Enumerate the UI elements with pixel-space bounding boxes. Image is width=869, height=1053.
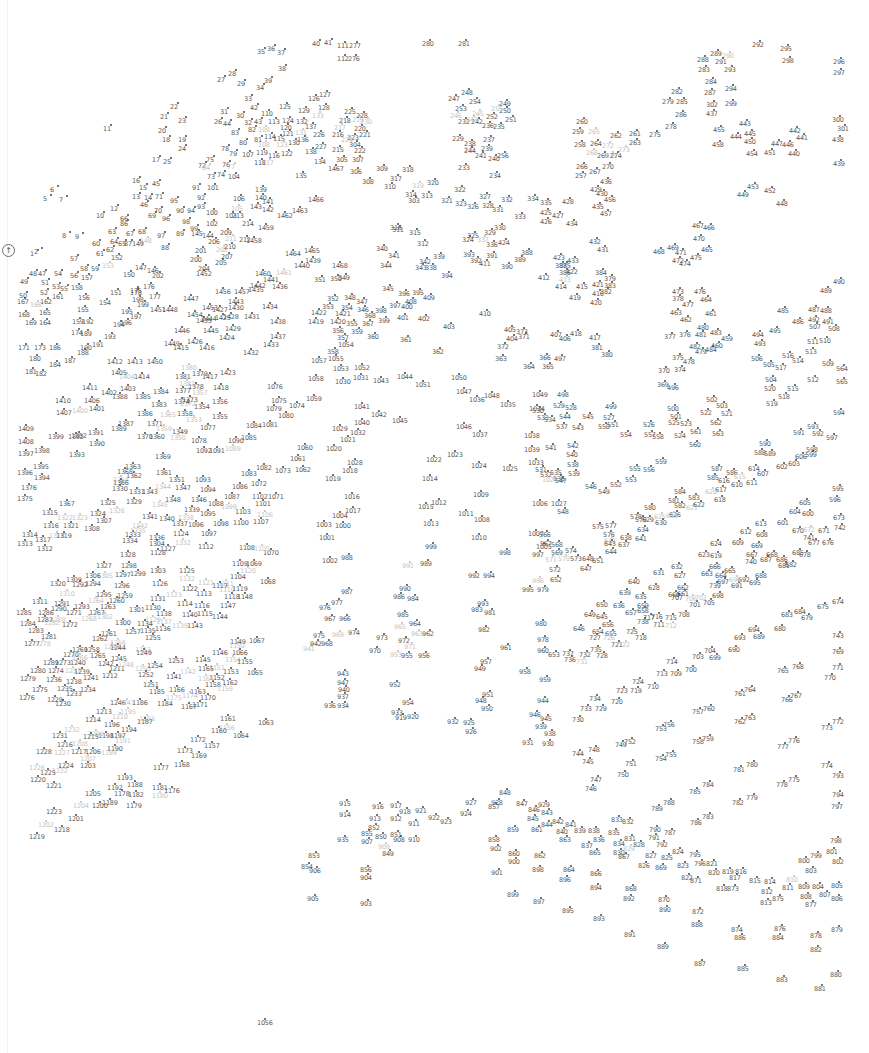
dot-number-label: 707: [671, 595, 683, 602]
dot-number-label: 1213: [96, 709, 112, 716]
dot-number-label: 1214: [85, 717, 101, 724]
dot-number-label: 1128: [150, 550, 166, 557]
dot-number-label: 744: [572, 751, 584, 758]
dot-number-label: 516: [782, 353, 794, 360]
dot-number-label: 831: [624, 836, 636, 843]
dot-number-label: 298: [782, 58, 794, 65]
dot-number-label: 410: [479, 311, 491, 318]
dot-number-label: 1366: [113, 480, 129, 487]
dot-number-label: 1320: [50, 581, 66, 588]
dot-number-label: 811: [782, 885, 794, 892]
dot-number-label: 855: [361, 831, 373, 838]
dot-number-label: 1402: [101, 390, 117, 397]
dot-number-label: 932: [447, 719, 459, 726]
dot-number-label: 573: [570, 556, 582, 563]
dot-number-label: 234: [489, 173, 501, 180]
dot-number-label: 450: [744, 139, 756, 146]
dot-number-label: 696: [729, 577, 741, 584]
dot-number-label: 1009: [473, 492, 489, 499]
dot-number-label: 1280: [30, 668, 46, 675]
dot-number-label: 975: [313, 633, 325, 640]
dot-number-label: 1024: [471, 463, 487, 470]
dot-number-label: 1241: [83, 675, 99, 682]
dot-number-label: 923: [440, 819, 452, 826]
dot-number-label: 827: [645, 853, 657, 860]
dot-number-label: 983: [471, 607, 483, 614]
dot-number-label: 1284: [20, 621, 36, 628]
dot-number-label: 326: [467, 204, 479, 211]
dot-number-label: 936: [324, 703, 336, 710]
dot-number-label: 1306: [85, 573, 101, 580]
dot-number-label: 1334: [122, 538, 138, 545]
dot-number-label: 601: [777, 520, 789, 527]
dot-number-label: 1048: [484, 393, 500, 400]
dot-number-label: 1301: [129, 607, 145, 614]
dot-number-label: 136: [297, 137, 309, 144]
dot-number-label: 743: [832, 633, 844, 640]
dot-number-label: 111: [337, 43, 349, 50]
dot-number-label: 415: [576, 284, 588, 291]
dot-number-label: 347: [356, 299, 368, 306]
dot-number-label: 466: [703, 225, 715, 232]
page-edge-rule: [7, 0, 8, 1053]
dot-number-label: 1160: [211, 728, 227, 735]
dot-number-label: 1325: [100, 500, 116, 507]
dot-number-label: 685: [792, 550, 804, 557]
dot-number-label: 565: [836, 379, 848, 386]
dot-number-label: 725: [626, 629, 638, 636]
dot-number-label: 196: [120, 320, 132, 327]
dot-number-label: 802: [832, 859, 844, 866]
dot-number-label: 456: [604, 197, 616, 204]
dot-number-label: 1396: [17, 470, 33, 477]
dot-number-label: 214: [242, 221, 254, 228]
dot-number-label: 134: [314, 159, 326, 166]
dot-number-label: 1371: [147, 421, 163, 428]
dot-number-label: 695: [749, 580, 761, 587]
dot-number-label: 1385: [135, 394, 151, 401]
dot-number-label: 1083: [241, 471, 257, 478]
dot-number-label: 752: [624, 739, 636, 746]
dot-number-label: 910: [408, 837, 420, 844]
dot-number-label: 776: [788, 738, 800, 745]
dot-number-label: 1007: [528, 531, 544, 538]
dot-number-label: 1449: [164, 341, 180, 348]
dot-number-label: 731: [576, 659, 588, 666]
dot-number-label: 1394: [34, 475, 50, 482]
dot-number-label: 261: [629, 131, 641, 138]
dot-number-label: 343: [415, 265, 427, 272]
dot-number-label: 89: [176, 231, 184, 238]
dot-number-label: 1434: [262, 304, 278, 311]
dot-number-label: 246: [450, 113, 462, 120]
dot-number-label: 591: [793, 430, 805, 437]
dot-number-label: 475: [690, 255, 702, 262]
dot-number-label: 482: [689, 344, 701, 351]
dot-number-label: 808: [800, 894, 812, 901]
dot-number-label: 666: [709, 564, 721, 571]
dot-number-label: 365: [542, 364, 554, 371]
dot-number-label: 222: [354, 148, 366, 155]
dot-number-label: 1232: [64, 727, 80, 734]
dot-number-label: 490: [833, 279, 845, 286]
dot-number-label: 839: [574, 828, 586, 835]
dot-number-label: 622: [693, 502, 705, 509]
dot-number-label: 603: [788, 461, 800, 468]
dot-number-label: 330: [494, 225, 506, 232]
dot-number-label: 266: [576, 164, 588, 171]
dot-number-label: 525: [668, 420, 680, 427]
dot-number-label: 966: [339, 616, 351, 623]
dot-number-label: 871: [690, 878, 702, 885]
dot-number-label: 241: [475, 153, 487, 160]
dot-number-label: 1049: [532, 392, 548, 399]
dot-number-label: 1005: [536, 544, 552, 551]
dot-number-label: 80: [239, 140, 247, 147]
dot-number-label: 906: [309, 868, 321, 875]
dot-number-label: 1202: [38, 822, 54, 829]
dot-number-label: 213: [232, 213, 244, 220]
dot-number-label: 94: [187, 208, 195, 215]
dot-number-label: 299: [725, 101, 737, 108]
dot-number-label: 263: [629, 140, 641, 147]
dot-number-label: 868: [625, 886, 637, 893]
dot-number-label: 1399: [48, 434, 64, 441]
dot-number-label: 773: [821, 725, 833, 732]
dot-number-label: 93: [197, 204, 205, 211]
